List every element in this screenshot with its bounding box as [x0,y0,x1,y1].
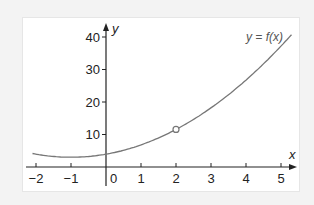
x-tick-label: 4 [242,171,249,186]
function-curve [33,35,292,158]
chart-svg: xy−2−101234510203040y = f(x) [0,0,314,205]
y-tick-label: 20 [86,95,100,110]
x-tick-label: 5 [277,171,284,186]
y-axis-label: y [111,21,120,36]
x-axis-label: x [288,147,296,162]
x-tick-label: −1 [64,171,79,186]
y-axis-arrow-icon [103,23,109,31]
x-tick-label: 1 [137,171,144,186]
x-tick-label: 0 [110,171,117,186]
x-tick-label: 2 [172,171,179,186]
y-tick-label: 10 [86,127,100,142]
x-axis-arrow-icon [289,164,297,170]
y-tick-label: 30 [86,62,100,77]
y-tick-label: 40 [86,30,100,45]
highlighted-point-marker [173,126,179,132]
x-tick-label: 3 [207,171,214,186]
function-label: y = f(x) [245,30,283,44]
x-tick-label: −2 [29,171,44,186]
